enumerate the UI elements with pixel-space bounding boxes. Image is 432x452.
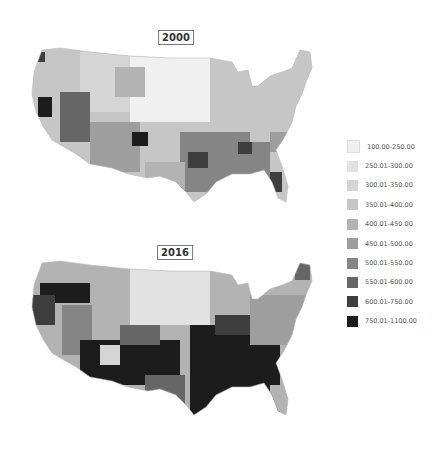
legend-label: 550.01-600.00 [365,278,413,286]
legend-label: 250.01-300.00 [365,162,413,170]
us-choropleth-map-2016 [20,255,320,435]
legend-swatch [347,316,358,327]
legend-label: 750.01-1100.00 [365,317,417,325]
legend-item: 550.01-600.00 [347,273,432,292]
legend-item: 250.01-300.00 [347,156,432,175]
legend-item: 600.01-750.00 [347,292,432,311]
legend-item: 400.01-450.00 [347,215,432,234]
map-legend: 100.00-250.00 250.01-300.00 300.01-350.0… [347,137,432,331]
legend-item: 450.01-500.00 [347,234,432,253]
legend-item: 100.00-250.00 [347,137,432,156]
legend-label: 600.01-750.00 [365,298,413,306]
legend-item: 350.01-400.00 [347,195,432,214]
legend-label: 100.00-250.00 [367,143,415,151]
legend-swatch [347,296,358,307]
legend-swatch [347,161,358,172]
legend-swatch [347,199,358,210]
legend-label: 500.01-550.00 [365,259,413,267]
legend-item: 300.01-350.00 [347,176,432,195]
legend-swatch [347,238,358,249]
legend-label: 450.01-500.00 [365,240,413,248]
map-panel-2000: 2000 [0,0,330,230]
legend-item: 750.01-1100.00 [347,312,432,331]
legend-swatch [347,258,358,269]
legend-swatch [347,219,358,230]
legend-label: 350.01-400.00 [365,201,413,209]
legend-label: 300.01-350.00 [365,181,413,189]
legend-swatch [347,277,358,288]
legend-swatch [347,140,360,153]
us-choropleth-map-2000 [20,42,320,222]
legend-label: 400.01-450.00 [365,220,413,228]
map-panel-2016: 2016 [0,232,330,452]
legend-swatch [347,180,358,191]
legend-item: 500.01-550.00 [347,253,432,272]
